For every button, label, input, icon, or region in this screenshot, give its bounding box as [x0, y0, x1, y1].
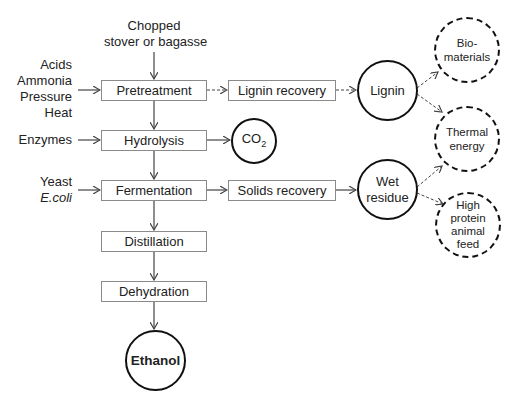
lignin-node: Lignin	[357, 60, 418, 121]
input-heat: Heat	[0, 105, 72, 121]
input-acids: Acids	[0, 57, 72, 73]
step-dehydration: Dehydration	[101, 281, 207, 302]
ethanol-node: Ethanol	[125, 330, 186, 391]
input-ammonia: Ammonia	[0, 73, 72, 89]
step-fermentation: Fermentation	[101, 180, 207, 201]
biomaterials-node: Bio-materials	[434, 17, 500, 83]
input-pressure: Pressure	[0, 89, 72, 105]
fermentation-inputs: Yeast E.coli	[0, 174, 72, 206]
feedstock-line1: Chopped	[104, 18, 204, 34]
feedstock-line2: stover or bagasse	[104, 34, 204, 50]
input-yeast: Yeast	[0, 174, 72, 190]
feedstock-label: Chopped stover or bagasse	[104, 18, 204, 50]
input-ecoli: E.coli	[0, 190, 72, 206]
hydrolysis-inputs: Enzymes	[0, 132, 72, 148]
pretreatment-inputs: Acids Ammonia Pressure Heat	[0, 57, 72, 121]
co2-node: CO2	[231, 118, 277, 164]
thermal-energy-node: Thermalenergy	[434, 106, 500, 172]
wet-residue-node: Wetresidue	[357, 159, 418, 220]
step-solids-recovery: Solids recovery	[228, 180, 336, 201]
co2-label: CO2	[242, 131, 267, 152]
step-distillation: Distillation	[101, 231, 207, 252]
input-enzymes: Enzymes	[0, 132, 72, 148]
step-pretreatment: Pretreatment	[101, 80, 207, 101]
animal-feed-node: Highproteinanimalfeed	[435, 192, 501, 258]
step-hydrolysis: Hydrolysis	[101, 130, 207, 151]
step-lignin-recovery: Lignin recovery	[228, 80, 336, 101]
